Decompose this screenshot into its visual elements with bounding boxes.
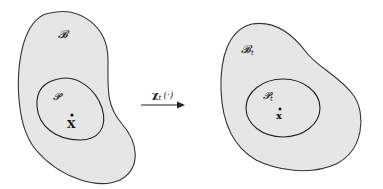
mapping-subscript: t: [159, 94, 162, 102]
current-point-label: x: [276, 110, 283, 121]
reference-point-label: X: [67, 118, 76, 131]
reference-configuration: 𝓑 𝓟 X: [18, 12, 135, 184]
current-part-subscript: t: [270, 95, 273, 103]
arrow-head-icon: [177, 102, 185, 109]
mapping-arrow: χt(·): [141, 89, 185, 109]
reference-point-dot: [70, 113, 73, 116]
deformation-diagram: 𝓑 𝓟 X χt(·) 𝓑t 𝓟t x: [0, 0, 383, 189]
current-configuration: 𝓑t 𝓟t x: [221, 23, 361, 170]
current-body-subscript: t: [251, 49, 254, 57]
mapping-label: χt(·): [152, 89, 174, 102]
mapping-argument: (·): [163, 90, 173, 100]
reference-body-region: [18, 12, 135, 184]
